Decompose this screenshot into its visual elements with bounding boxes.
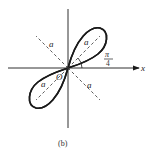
- rose-diagram: a a a a O x π 4 (b): [0, 0, 151, 152]
- petal-label-upper-left: a: [49, 39, 54, 49]
- petal-label-lower-left: a: [41, 79, 46, 89]
- angle-numerator: π: [105, 50, 110, 59]
- x-axis-label: x: [140, 63, 145, 73]
- angle-denominator: 4: [106, 59, 110, 68]
- petal-label-lower-right: a: [87, 80, 92, 90]
- figure-caption: (b): [58, 139, 68, 148]
- petal-label-upper-right: a: [84, 37, 89, 47]
- origin-label: O: [56, 72, 63, 82]
- angle-label: π 4: [104, 50, 113, 68]
